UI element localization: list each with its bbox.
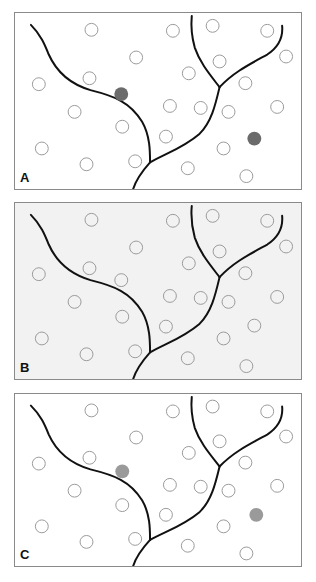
open-circle <box>83 451 96 464</box>
open-circle <box>80 348 93 361</box>
panel-a-label: A <box>20 171 29 184</box>
open-circle <box>80 535 93 548</box>
open-circle <box>217 142 230 155</box>
panel-a: A <box>14 12 302 190</box>
open-circle <box>194 480 207 493</box>
open-circle <box>130 241 143 254</box>
open-circle <box>182 257 195 270</box>
open-circle <box>130 51 143 64</box>
filled-circle <box>247 132 261 146</box>
open-circle <box>115 274 128 287</box>
open-circle <box>129 532 142 545</box>
open-circle <box>32 268 45 281</box>
open-circle <box>222 484 235 497</box>
river-line <box>150 87 220 162</box>
open-circle <box>217 332 230 345</box>
open-circle <box>181 162 194 175</box>
open-circle <box>130 431 143 444</box>
open-circle <box>239 267 252 280</box>
open-circle <box>217 520 230 533</box>
open-circle <box>85 213 98 226</box>
open-circle <box>271 101 284 114</box>
open-circle <box>239 456 252 469</box>
open-circle <box>166 24 179 37</box>
open-circle <box>206 209 219 222</box>
open-circle <box>213 55 226 68</box>
river-line <box>191 206 219 277</box>
open-circle <box>163 290 176 303</box>
river-network <box>31 206 282 379</box>
open-circle <box>163 100 176 113</box>
open-circle <box>213 245 226 258</box>
river-line <box>220 26 283 87</box>
river-line <box>220 407 283 467</box>
open-circle <box>35 520 48 533</box>
open-circle <box>116 499 129 512</box>
panel-a-diagram <box>15 13 301 189</box>
open-circle <box>206 400 219 413</box>
open-circle <box>129 155 142 168</box>
river-line <box>31 215 150 352</box>
open-circle <box>80 158 93 171</box>
open-circle <box>85 404 98 417</box>
open-circle <box>213 435 226 448</box>
open-circle <box>280 50 293 63</box>
river-network <box>31 16 282 189</box>
open-circle <box>68 484 81 497</box>
open-circle <box>181 539 194 552</box>
open-circle <box>116 310 129 323</box>
open-circle <box>280 240 293 253</box>
river-network <box>31 397 282 566</box>
river-line <box>150 277 220 352</box>
open-circle <box>261 405 274 418</box>
open-circle <box>35 142 48 155</box>
open-circle <box>194 101 207 114</box>
open-circle <box>32 457 45 470</box>
open-circle <box>159 508 172 521</box>
open-circle <box>240 360 253 373</box>
open-circle <box>163 478 176 491</box>
open-circle <box>222 295 235 308</box>
open-circle <box>280 430 293 443</box>
river-line <box>133 162 150 189</box>
open-circle <box>32 78 45 91</box>
river-line <box>133 540 150 566</box>
open-circle <box>159 320 172 333</box>
panel-b-label: B <box>20 361 29 374</box>
open-circle <box>85 23 98 36</box>
open-circle <box>166 214 179 227</box>
panel-b-diagram <box>15 203 301 379</box>
open-circle <box>182 446 195 459</box>
open-circle <box>116 120 129 133</box>
open-circle <box>271 479 284 492</box>
open-circle <box>222 105 235 118</box>
open-circle <box>240 170 253 183</box>
open-circle <box>83 262 96 275</box>
river-line <box>31 25 150 162</box>
open-circle <box>271 291 284 304</box>
panel-b: B <box>14 202 302 380</box>
open-circle <box>35 332 48 345</box>
open-circle <box>68 105 81 118</box>
open-circle <box>206 19 219 32</box>
open-circle <box>248 319 261 332</box>
open-circle <box>83 72 96 85</box>
river-line <box>31 406 150 540</box>
open-circle <box>239 77 252 90</box>
river-line <box>220 216 283 277</box>
open-circle <box>129 345 142 358</box>
river-line <box>150 466 220 539</box>
panel-c-label: C <box>20 548 29 561</box>
open-circle <box>159 130 172 143</box>
river-line <box>133 352 150 379</box>
open-circle <box>166 405 179 418</box>
panel-c-diagram <box>15 394 301 566</box>
open-circle <box>182 67 195 80</box>
open-circle <box>181 352 194 365</box>
river-line <box>191 16 219 87</box>
open-circle <box>194 291 207 304</box>
river-line <box>191 397 219 467</box>
open-circle <box>261 24 274 37</box>
filled-circle <box>249 508 263 522</box>
open-circle <box>240 547 253 560</box>
